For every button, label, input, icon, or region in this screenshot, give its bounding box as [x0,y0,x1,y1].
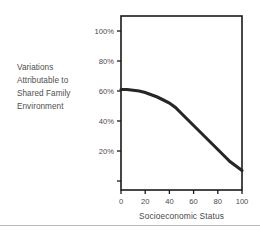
chart-figure: Variations Attributable to Shared Family… [0,0,260,233]
x-tick-label: 60 [189,197,197,206]
y-tick-label: 100% [95,27,115,36]
plot-frame [121,16,242,190]
x-tick-label: 40 [165,197,173,206]
x-tick-label: 100 [236,197,249,206]
x-tick-label: 20 [141,197,149,206]
x-tick-label: 80 [214,197,222,206]
x-tick-label: 0 [119,197,123,206]
plot-svg: 20%40%60%80%100% 020406080100 Socioecono… [0,0,260,233]
y-tick-group: 20%40%60%80%100% [95,27,121,181]
series-line-shared-family-environment [121,90,242,171]
y-tick-label: 60% [99,87,114,96]
data-series-group [121,90,242,171]
x-tick-group: 020406080100 [119,190,248,206]
x-axis-title: Socioeconomic Status [139,211,224,221]
y-tick-label: 20% [99,147,114,156]
footer-band [0,226,260,233]
y-tick-label: 80% [99,57,114,66]
y-tick-label: 40% [99,117,114,126]
